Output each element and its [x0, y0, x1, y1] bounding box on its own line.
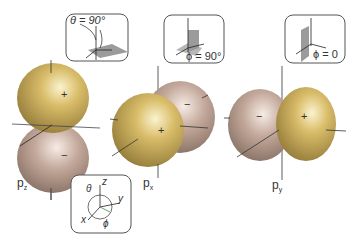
px-label: px [143, 176, 153, 191]
pz-positive-lobe [17, 63, 89, 133]
py-positive-lobe [276, 87, 336, 161]
phi-90-text: ϕ = 90° [186, 50, 221, 62]
axis-x-label: x [81, 214, 86, 225]
axes-inset [71, 175, 131, 233]
py-plus-sign: + [301, 110, 307, 122]
pz-label: pz [17, 176, 27, 191]
py-orbital [224, 66, 346, 180]
phi-0-text: ϕ = 0 [313, 48, 338, 60]
px-positive-lobe [112, 93, 184, 167]
px-minus-sign: − [184, 98, 190, 110]
py-minus-sign: − [256, 110, 262, 122]
px-plus-sign: + [158, 124, 164, 136]
theta-90-text: θ = 90° [70, 14, 105, 26]
py-label: py [272, 178, 282, 193]
axis-phi-label: ϕ [103, 218, 109, 229]
axis-y-label: y [118, 193, 123, 204]
axis-theta-label: θ [86, 183, 91, 194]
pz-plus-sign: + [61, 88, 67, 100]
axis-z-label: z [102, 176, 107, 187]
pz-minus-sign: − [61, 149, 67, 161]
px-orbital [110, 66, 215, 178]
